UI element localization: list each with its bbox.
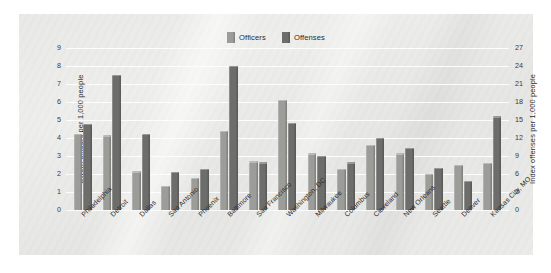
y-tick-right: 27 — [515, 44, 523, 51]
y-tick-right: 24 — [515, 62, 523, 69]
y-tick-left: 9 — [57, 44, 61, 51]
bar-group — [185, 48, 214, 210]
x-axis-category-labels: PhiladelphiaDetroitDallasSan AntonioPhoe… — [66, 213, 509, 269]
bar-officers[interactable] — [396, 153, 405, 210]
bar-officers[interactable] — [483, 163, 492, 210]
y-tick-left: 5 — [57, 116, 61, 123]
bar-offenses[interactable] — [376, 138, 385, 210]
legend-swatch-offenses — [282, 32, 290, 43]
legend-label: Officers — [239, 33, 266, 42]
bar-officers[interactable] — [220, 131, 229, 210]
bar-offenses[interactable] — [405, 148, 414, 210]
legend-item-officers[interactable]: Officers — [227, 32, 266, 43]
bar-officers[interactable] — [132, 171, 141, 210]
y-tick-right: 15 — [515, 116, 523, 123]
bar-officers[interactable] — [366, 145, 375, 210]
legend-label: Offenses — [294, 33, 325, 42]
legend-item-offenses[interactable]: Offenses — [282, 32, 325, 43]
y-tick-right: 0 — [515, 206, 519, 213]
bar-group — [331, 48, 360, 210]
bar-group — [127, 48, 156, 210]
y-tick-right: 21 — [515, 80, 523, 87]
bar-group — [156, 48, 185, 210]
bar-officers[interactable] — [74, 134, 83, 211]
bar-group — [244, 48, 273, 210]
y-tick-left: 7 — [57, 80, 61, 87]
y-tick-right: 12 — [515, 134, 523, 141]
y-tick-left: 8 — [57, 62, 61, 69]
chart-figure: OfficersOffenses 0123456789 036912151821… — [0, 0, 551, 273]
chart-panel: OfficersOffenses 0123456789 036912151821… — [19, 14, 533, 255]
y-tick-left: 1 — [57, 188, 61, 195]
bar-offenses[interactable] — [112, 75, 121, 210]
bar-group — [214, 48, 243, 210]
y-tick-right: 6 — [515, 170, 519, 177]
bar-offenses[interactable] — [288, 123, 297, 210]
bar-officers[interactable] — [454, 165, 463, 210]
bar-officers[interactable] — [161, 186, 170, 210]
bar-offenses[interactable] — [229, 66, 238, 210]
bar-offenses[interactable] — [83, 124, 92, 210]
bar-group — [361, 48, 390, 210]
y-tick-right: 18 — [515, 98, 523, 105]
y-axis-right-title: Index offenses per 1,000 people — [527, 74, 536, 184]
y-tick-right: 9 — [515, 152, 519, 159]
bar-group — [97, 48, 126, 210]
bar-group — [448, 48, 477, 210]
bar-offenses[interactable] — [493, 116, 502, 210]
bar-officers[interactable] — [249, 161, 258, 210]
chart-legend: OfficersOffenses — [19, 32, 533, 43]
bar-officers[interactable] — [103, 135, 112, 210]
bar-group — [68, 48, 97, 210]
bar-group — [390, 48, 419, 210]
y-tick-left: 6 — [57, 98, 61, 105]
bar-offenses[interactable] — [142, 134, 151, 211]
legend-swatch-officers — [227, 32, 235, 43]
bar-group — [478, 48, 507, 210]
y-tick-left: 0 — [57, 206, 61, 213]
y-tick-left: 4 — [57, 134, 61, 141]
y-tick-left: 2 — [57, 170, 61, 177]
y-tick-left: 3 — [57, 152, 61, 159]
